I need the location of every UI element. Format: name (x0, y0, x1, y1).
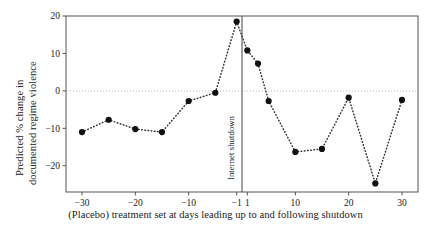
data-point (132, 126, 138, 132)
figure-container: 20100−10−20 −30−20−10−11102030 Predicted… (0, 0, 431, 235)
data-point (266, 98, 272, 104)
data-point (372, 180, 378, 186)
data-point (292, 149, 298, 155)
svg-text:−20: −20 (128, 198, 143, 208)
shutdown-annotation-label: Internet shutdown (226, 116, 236, 180)
data-point (159, 129, 165, 135)
svg-text:30: 30 (397, 198, 407, 208)
x-axis-ticks: −30−20−10−11102030 (75, 192, 407, 208)
svg-text:−30: −30 (75, 198, 90, 208)
data-point (346, 95, 352, 101)
data-point (79, 129, 85, 135)
svg-text:10: 10 (291, 198, 301, 208)
svg-text:20: 20 (344, 198, 354, 208)
data-point (106, 117, 112, 123)
data-point (244, 47, 250, 53)
data-point (255, 60, 261, 66)
y-axis-label-line2: documented regime violence (27, 61, 38, 185)
svg-text:10: 10 (51, 49, 61, 59)
y-axis-label: Predicted % change in documented regime … (0, 0, 48, 195)
data-point (186, 98, 192, 104)
y-axis-label-line1: Predicted % change in (14, 80, 25, 176)
data-point (319, 146, 325, 152)
svg-text:−10: −10 (181, 198, 196, 208)
svg-text:0: 0 (55, 86, 60, 96)
svg-text:1: 1 (245, 198, 250, 208)
chart-canvas: 20100−10−20 −30−20−10−11102030 (0, 0, 431, 235)
x-axis-label: (Placebo) treatment set at days leading … (0, 209, 431, 220)
data-point (234, 19, 240, 25)
svg-text:−1: −1 (232, 198, 242, 208)
data-point (212, 90, 218, 96)
svg-text:20: 20 (51, 11, 61, 21)
y-axis-ticks: 20100−10−20 (45, 11, 66, 171)
data-point (399, 97, 405, 103)
